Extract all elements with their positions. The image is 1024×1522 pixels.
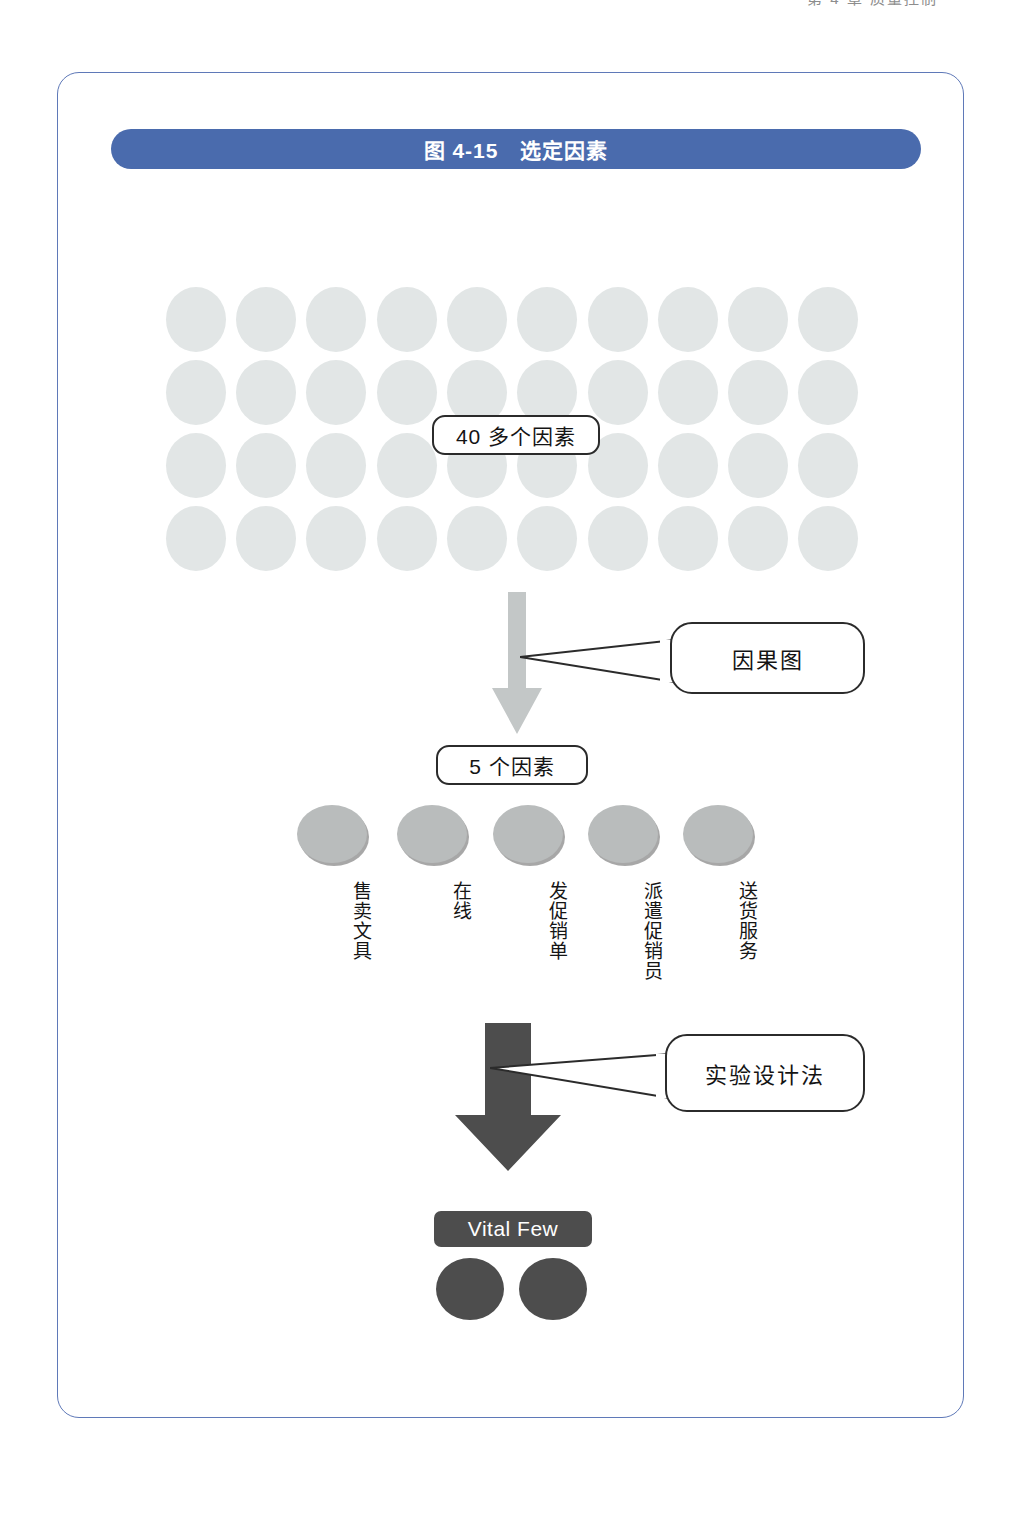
factor-label: 发促销单 <box>493 881 567 1001</box>
callout-tail-icon <box>490 1052 670 1100</box>
factor-item: 送货服务 <box>683 805 757 1001</box>
factor-dot <box>658 360 718 425</box>
five-factors-label-text: 5 个因素 <box>469 750 555 780</box>
factor-item: 派遣促销员 <box>588 805 662 1001</box>
vital-few-text: Vital Few <box>468 1217 558 1241</box>
dot-grid-row <box>166 506 858 571</box>
callout-cause-effect-text: 因果图 <box>732 642 804 674</box>
dot-grid-row <box>166 287 858 352</box>
factor-dot <box>236 287 296 352</box>
factor-dot <box>728 433 788 498</box>
factor-item: 发促销单 <box>493 805 567 1001</box>
factor-label: 售卖文具 <box>297 881 371 1001</box>
factor-dot <box>377 433 437 498</box>
vital-few-dot <box>436 1258 504 1320</box>
figure-title-banner: 图 4-15 选定因素 <box>111 129 921 169</box>
factor-dot <box>166 360 226 425</box>
many-factors-label-text: 40 多个因素 <box>456 420 576 450</box>
factor-dot <box>236 360 296 425</box>
callout-doe: 实验设计法 <box>490 1034 865 1112</box>
factor-dot <box>728 360 788 425</box>
factor-dot <box>798 433 858 498</box>
vital-few-banner: Vital Few <box>434 1211 592 1247</box>
factor-dot <box>798 506 858 571</box>
factor-dot <box>798 360 858 425</box>
factor-dot <box>236 433 296 498</box>
factor-item: 售卖文具 <box>297 805 371 1001</box>
factor-dot <box>377 360 437 425</box>
factor-dot <box>588 506 648 571</box>
callout-cause-effect: 因果图 <box>520 622 865 694</box>
five-factors-label: 5 个因素 <box>436 745 588 785</box>
factor-dot <box>166 433 226 498</box>
factor-dot <box>658 506 718 571</box>
factor-label: 送货服务 <box>683 881 757 1001</box>
factor-dot <box>306 506 366 571</box>
factor-dot <box>798 287 858 352</box>
factor-dot <box>588 360 648 425</box>
factor-dot <box>377 287 437 352</box>
factor-dot <box>658 433 718 498</box>
factor-dot <box>236 506 296 571</box>
factor-dot <box>166 287 226 352</box>
vital-few-dot <box>519 1258 587 1320</box>
selected-factors-row: 售卖文具 在线 发促销单 派遣促销员 送货服务 <box>285 805 745 1005</box>
factor-dot <box>306 433 366 498</box>
factor-dot <box>377 506 437 571</box>
factor-dot-selected <box>683 805 753 863</box>
factor-dot <box>728 287 788 352</box>
factor-dot <box>447 506 507 571</box>
factor-dot <box>517 506 577 571</box>
callout-cause-effect-bubble: 因果图 <box>670 622 865 694</box>
factor-dot <box>166 506 226 571</box>
callout-doe-text: 实验设计法 <box>705 1057 825 1089</box>
factor-label: 在线 <box>397 881 471 1001</box>
factor-dot <box>517 287 577 352</box>
factor-dot <box>306 287 366 352</box>
factor-dot-selected <box>397 805 467 863</box>
figure-title-text: 图 4-15 选定因素 <box>424 134 609 164</box>
running-head-text: 第 4 章 质量控制 <box>807 0 938 8</box>
factor-dot <box>728 506 788 571</box>
factor-dot <box>588 287 648 352</box>
factor-dot-selected <box>297 805 367 863</box>
factor-label: 派遣促销员 <box>588 881 662 1001</box>
callout-doe-bubble: 实验设计法 <box>665 1034 865 1112</box>
factor-item: 在线 <box>397 805 471 1001</box>
callout-tail-icon <box>520 638 675 684</box>
factor-dot <box>306 360 366 425</box>
many-factors-label: 40 多个因素 <box>432 415 600 455</box>
factor-dot-selected <box>588 805 658 863</box>
running-head: 第 4 章 质量控制 <box>0 0 1024 14</box>
factor-dot <box>447 287 507 352</box>
factor-dot <box>658 287 718 352</box>
factor-dot-selected <box>493 805 563 863</box>
